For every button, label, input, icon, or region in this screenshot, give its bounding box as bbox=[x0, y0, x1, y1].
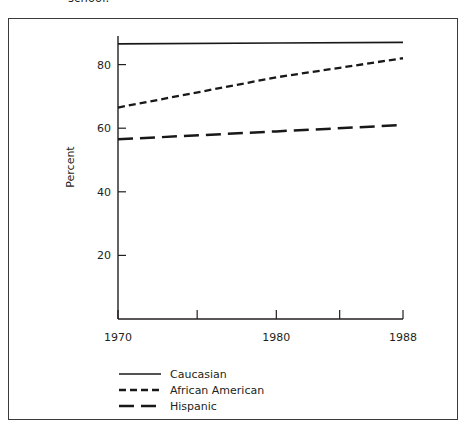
y-axis-ticks: 20406080 bbox=[97, 59, 126, 263]
series-line-hispanic bbox=[118, 125, 403, 139]
y-axis-title: Percent bbox=[64, 146, 77, 188]
figure-frame: 20406080 197019801988 Percent CaucasianA… bbox=[8, 18, 458, 420]
caption-text: school. bbox=[68, 0, 109, 5]
chart-plot-area: 20406080 197019801988 Percent CaucasianA… bbox=[9, 19, 459, 421]
caption-strip: school. bbox=[0, 0, 465, 14]
series-line-african-american bbox=[118, 58, 403, 107]
y-tick-label: 80 bbox=[97, 59, 111, 72]
line-chart: 20406080 197019801988 Percent CaucasianA… bbox=[9, 19, 459, 421]
x-axis-ticks: 197019801988 bbox=[104, 310, 417, 344]
series-line-caucasian bbox=[118, 42, 403, 44]
x-tick-label: 1980 bbox=[262, 331, 290, 344]
legend-label-hispanic: Hispanic bbox=[170, 400, 217, 413]
x-tick-label: 1988 bbox=[389, 331, 417, 344]
legend-label-caucasian: Caucasian bbox=[170, 368, 227, 381]
y-tick-label: 40 bbox=[97, 186, 111, 199]
x-tick-label: 1970 bbox=[104, 331, 132, 344]
chart-series-group bbox=[118, 42, 403, 139]
chart-legend: CaucasianAfrican AmericanHispanic bbox=[119, 368, 264, 413]
y-tick-label: 60 bbox=[97, 122, 111, 135]
legend-label-african-american: African American bbox=[170, 384, 264, 397]
y-tick-label: 20 bbox=[97, 249, 111, 262]
